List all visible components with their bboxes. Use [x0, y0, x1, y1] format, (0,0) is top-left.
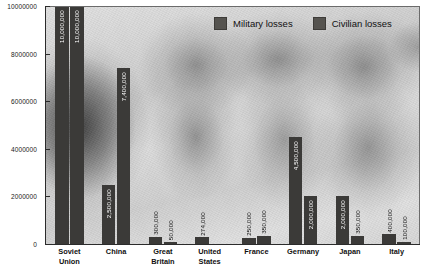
bar-value-label: 10,000,000	[58, 10, 65, 43]
y-tick-label: 6000000	[11, 98, 37, 105]
bar-value-label: 4,500,000	[292, 141, 299, 170]
legend-entry-civilian[interactable]: Civilian losses	[313, 17, 392, 30]
bar-value-label: 300,000	[152, 211, 159, 235]
x-axis: SovietUnionChinaGreatBritainUnitedStates…	[46, 247, 420, 276]
y-tick-label: 0	[33, 241, 37, 248]
bar-value-label: 350,000	[260, 210, 267, 234]
x-category-label-great-britain: GreatBritain	[140, 247, 187, 266]
x-category-label-line: United	[186, 247, 233, 257]
x-category-label-line: France	[233, 247, 280, 257]
x-category-label-line: Britain	[140, 257, 187, 267]
x-category-label-line: Germany	[280, 247, 327, 257]
y-tick-label: 8000000	[11, 50, 37, 57]
bar-value-label: 100,000	[401, 216, 408, 240]
bar-soviet-union-military: 10,000,000	[55, 6, 69, 244]
bar-value-label: 10,000,000	[73, 10, 80, 43]
bar-value-label: 350,000	[354, 210, 361, 234]
bar-value-label: 400,000	[386, 209, 393, 233]
legend-label: Civilian losses	[332, 18, 392, 29]
x-category-label-germany: Germany	[280, 247, 327, 257]
bar-france-civilian: 350,000	[257, 236, 271, 244]
bar-chart: 1000000080000006000000400000020000000 10…	[0, 0, 423, 276]
bar-value-label: 2,000,000	[307, 200, 314, 229]
y-tick-mark	[45, 244, 50, 245]
x-category-label-china: China	[93, 247, 140, 257]
y-tick-mark	[45, 6, 50, 7]
legend-swatch-icon	[313, 17, 326, 30]
bar-value-label: 274,000	[199, 212, 206, 236]
bar-value-label: 2,000,000	[339, 200, 346, 229]
x-axis-line	[45, 244, 420, 245]
x-category-label-united-states: UnitedStates	[186, 247, 233, 266]
x-category-label-japan: Japan	[327, 247, 374, 257]
bar-value-label: 2,500,000	[105, 189, 112, 218]
bar-japan-military: 2,000,000	[336, 196, 350, 244]
legend-label: Military losses	[233, 18, 293, 29]
x-category-label-line: Great	[140, 247, 187, 257]
bar-soviet-union-civilian: 10,000,000	[70, 6, 84, 244]
x-category-label-line: Italy	[373, 247, 420, 257]
x-category-label-line: Union	[46, 257, 93, 267]
y-tick-label: 2000000	[11, 193, 37, 200]
plot-area: 10,000,00010,000,0002,500,0007,400,00030…	[46, 6, 420, 244]
bar-china-military: 2,500,000	[102, 185, 116, 245]
legend-entry-military[interactable]: Military losses	[214, 17, 293, 30]
x-category-label-line: China	[93, 247, 140, 257]
y-tick-label: 10000000	[7, 3, 37, 10]
bar-china-civilian: 7,400,000	[117, 68, 131, 244]
bar-great-britain-military: 300,000	[149, 237, 163, 244]
x-category-label-line: States	[186, 257, 233, 267]
bar-germany-civilian: 2,000,000	[304, 196, 318, 244]
y-axis: 1000000080000006000000400000020000000	[0, 0, 45, 276]
y-tick-mark	[45, 101, 50, 102]
bar-value-label: 50,000	[167, 220, 174, 240]
legend-swatch-icon	[214, 17, 227, 30]
x-category-label-soviet-union: SovietUnion	[46, 247, 93, 266]
bars-layer: 10,000,00010,000,0002,500,0007,400,00030…	[46, 7, 419, 244]
bar-value-label: 7,400,000	[120, 72, 127, 101]
bar-germany-military: 4,500,000	[289, 137, 303, 244]
x-category-label-italy: Italy	[373, 247, 420, 257]
bar-value-label: 250,000	[245, 212, 252, 236]
y-tick-mark	[45, 149, 50, 150]
chart-legend: Military lossesCivilian losses	[214, 17, 392, 30]
bar-japan-civilian: 350,000	[351, 236, 365, 244]
bar-italy-military: 400,000	[382, 234, 396, 244]
y-tick-mark	[45, 54, 50, 55]
y-tick-mark	[45, 196, 50, 197]
y-tick-label: 4000000	[11, 145, 37, 152]
x-category-label-line: Soviet	[46, 247, 93, 257]
x-category-label-france: France	[233, 247, 280, 257]
x-category-label-line: Japan	[327, 247, 374, 257]
